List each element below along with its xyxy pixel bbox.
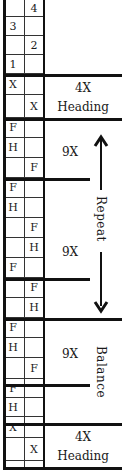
heading-bottom-name: Heading: [48, 448, 118, 465]
grid-cell-col2: X: [24, 95, 44, 117]
grid-cell-col1: H: [3, 198, 23, 217]
repeat-annotation: Repeat: [94, 196, 108, 242]
grid-cell-col2: [24, 17, 44, 35]
grid-cell-col1: 1: [3, 55, 23, 73]
divider-after-block3: [3, 384, 90, 387]
grid-cell-col1: H: [3, 338, 23, 357]
divider-before-heading-bottom: [3, 423, 122, 426]
grid-cell-col2: [24, 398, 44, 416]
block1-count: 9X: [52, 144, 88, 161]
heading-bottom-label: 4X Heading: [48, 429, 118, 465]
balance-annotation: Balance: [94, 346, 108, 398]
grid-cell-col2: [24, 379, 44, 397]
grid-cell-col2: F: [24, 358, 44, 378]
grid-cell-col2: F: [24, 218, 44, 237]
arrow-down-shaft: [100, 252, 102, 306]
heading-top-label: 4X Heading: [48, 80, 118, 116]
grid-cell-col1: X: [3, 417, 23, 437]
divider-after-heading-top: [3, 118, 122, 121]
block2-count: 9X: [52, 244, 88, 261]
grid-cell-col1: [3, 438, 23, 460]
heading-top-count: 4X: [48, 80, 118, 97]
grid-cell-col1: [3, 158, 23, 177]
grid-cell-col1: X: [3, 74, 23, 94]
grid-cell-col1: [3, 358, 23, 378]
grid-cell-col2: H: [24, 298, 44, 317]
grid-cell-col1: [3, 238, 23, 257]
grid-cell-col1: H: [3, 138, 23, 157]
grid-right-border: [43, 0, 45, 470]
grid-cell-col1: [3, 218, 23, 237]
grid-cell-col2: 2: [24, 36, 44, 54]
grid-cell-col1: [3, 36, 23, 54]
grid-cell-col1: [3, 95, 23, 117]
grid-cell-col2: F: [24, 158, 44, 177]
grid-left-border: [3, 0, 6, 470]
grid-cell-col1: [3, 298, 23, 317]
heading-bottom-count: 4X: [48, 429, 118, 446]
arrow-down-icon: [93, 300, 109, 314]
grid-cell-col2: X: [24, 438, 44, 460]
grid-cell-col2: H: [24, 238, 44, 257]
grid-cell-col1: F: [3, 258, 23, 277]
grid-cell-col1: [3, 0, 23, 16]
divider-after-numbers: [3, 74, 122, 77]
grid-cell-col2: [24, 198, 44, 217]
arrow-up-shaft: [100, 138, 102, 190]
grid-cell-col2: [24, 74, 44, 94]
block3-count: 9X: [52, 346, 88, 363]
divider-after-block1: [3, 178, 90, 181]
grid-middle-divider: [24, 0, 25, 470]
divider-after-repeat: [3, 318, 122, 321]
grid-cell-col2: 4: [24, 0, 44, 16]
grid-cell-col1: H: [3, 398, 23, 416]
grid-cell-col1: F: [3, 379, 23, 397]
grid-cell-col2: [24, 55, 44, 73]
grid-cell-col2: [24, 258, 44, 277]
grid-cell-col2: [24, 138, 44, 157]
grid-cell-col1: 3: [3, 17, 23, 35]
heading-top-name: Heading: [48, 99, 118, 116]
grid-cell-col2: [24, 338, 44, 357]
divider-mid-repeat: [3, 278, 90, 281]
grid-cell-col2: [24, 417, 44, 437]
